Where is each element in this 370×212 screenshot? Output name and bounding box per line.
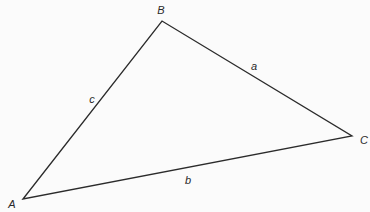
vertex-label-a: A xyxy=(8,199,15,210)
side-label-c: c xyxy=(89,94,95,105)
side-label-b: b xyxy=(185,175,191,186)
triangle-diagram: A B C a b c xyxy=(0,0,370,212)
triangle-abc xyxy=(23,21,352,199)
vertex-label-c: C xyxy=(360,135,368,146)
vertex-label-b: B xyxy=(157,5,164,16)
side-label-a: a xyxy=(251,61,257,72)
